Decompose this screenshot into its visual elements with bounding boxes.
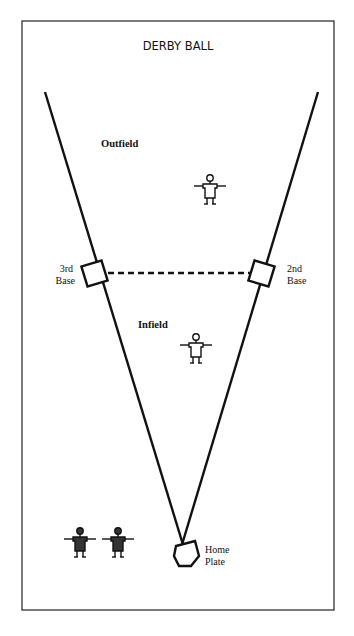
derby-ball-diagram: DERBY BALL Outfield Infield 3rd Base 2nd… bbox=[0, 0, 354, 636]
second-base bbox=[248, 260, 274, 286]
second-base-label-line2: Base bbox=[287, 275, 307, 286]
home-plate-label-line2: Plate bbox=[205, 556, 226, 567]
batting-player-icon-2 bbox=[102, 528, 134, 557]
home-plate bbox=[174, 541, 199, 566]
third-base-label-line2: Base bbox=[56, 275, 76, 286]
diagram-title: DERBY BALL bbox=[143, 39, 214, 53]
second-base-label-line1: 2nd bbox=[287, 263, 302, 274]
infield-label: Infield bbox=[138, 319, 168, 330]
infield-player-icon bbox=[180, 334, 212, 363]
outfield-label: Outfield bbox=[101, 138, 138, 149]
batting-player-icon-1 bbox=[64, 528, 96, 557]
home-plate-label-line1: Home bbox=[205, 544, 230, 555]
outfield-player-icon bbox=[194, 175, 226, 204]
third-base-label-line1: 3rd bbox=[60, 263, 73, 274]
diagram-frame bbox=[22, 21, 334, 610]
right-foul-line bbox=[181, 92, 318, 548]
third-base bbox=[81, 260, 107, 286]
